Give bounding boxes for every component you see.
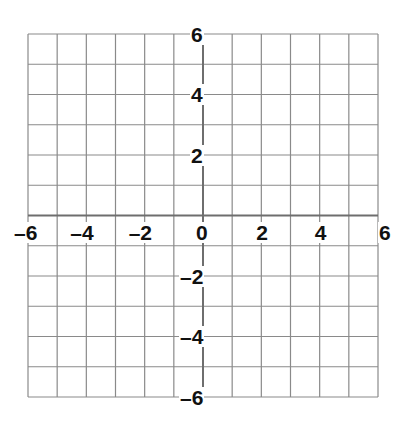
y-tick-label: 4: [190, 84, 204, 105]
y-tick-label: –6: [179, 387, 204, 408]
y-tick-label: –2: [179, 266, 204, 287]
x-tick-label: –6: [13, 222, 38, 243]
x-tick-label: 0: [195, 222, 209, 243]
x-tick-label: 2: [255, 222, 269, 243]
y-tick-label: 2: [190, 145, 204, 166]
coordinate-plane: [0, 0, 409, 434]
y-tick-label: –4: [179, 326, 204, 347]
x-tick-label: 4: [314, 222, 328, 243]
x-tick-label: –4: [69, 222, 94, 243]
x-tick-label: –2: [128, 222, 153, 243]
y-tick-label: 6: [190, 24, 204, 45]
x-tick-label: 6: [378, 222, 392, 243]
